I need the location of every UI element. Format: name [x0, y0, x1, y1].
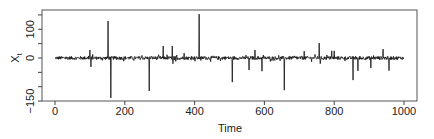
- time-series-chart: 02004006008001000 −1500100 Time Xt: [0, 0, 434, 139]
- x-tick-label: 0: [52, 105, 58, 117]
- y-tick-label: −150: [24, 89, 36, 114]
- y-axis-label-subscript: t: [16, 53, 23, 55]
- plot-frame: [42, 10, 417, 101]
- y-axis: −1500100: [24, 15, 42, 113]
- y-tick-label: 100: [24, 20, 36, 38]
- y-tick-label: 0: [24, 55, 36, 61]
- x-tick-label: 600: [255, 105, 273, 117]
- y-axis-label: Xt: [9, 53, 23, 62]
- x-tick-label: 400: [185, 105, 203, 117]
- x-tick-label: 200: [116, 105, 134, 117]
- x-axis: 02004006008001000: [52, 101, 416, 117]
- x-tick-label: 800: [325, 105, 343, 117]
- x-axis-label: Time: [218, 122, 242, 134]
- series-line-xt: [55, 14, 404, 98]
- svg-text:Xt: Xt: [9, 53, 23, 62]
- x-tick-label: 1000: [392, 105, 416, 117]
